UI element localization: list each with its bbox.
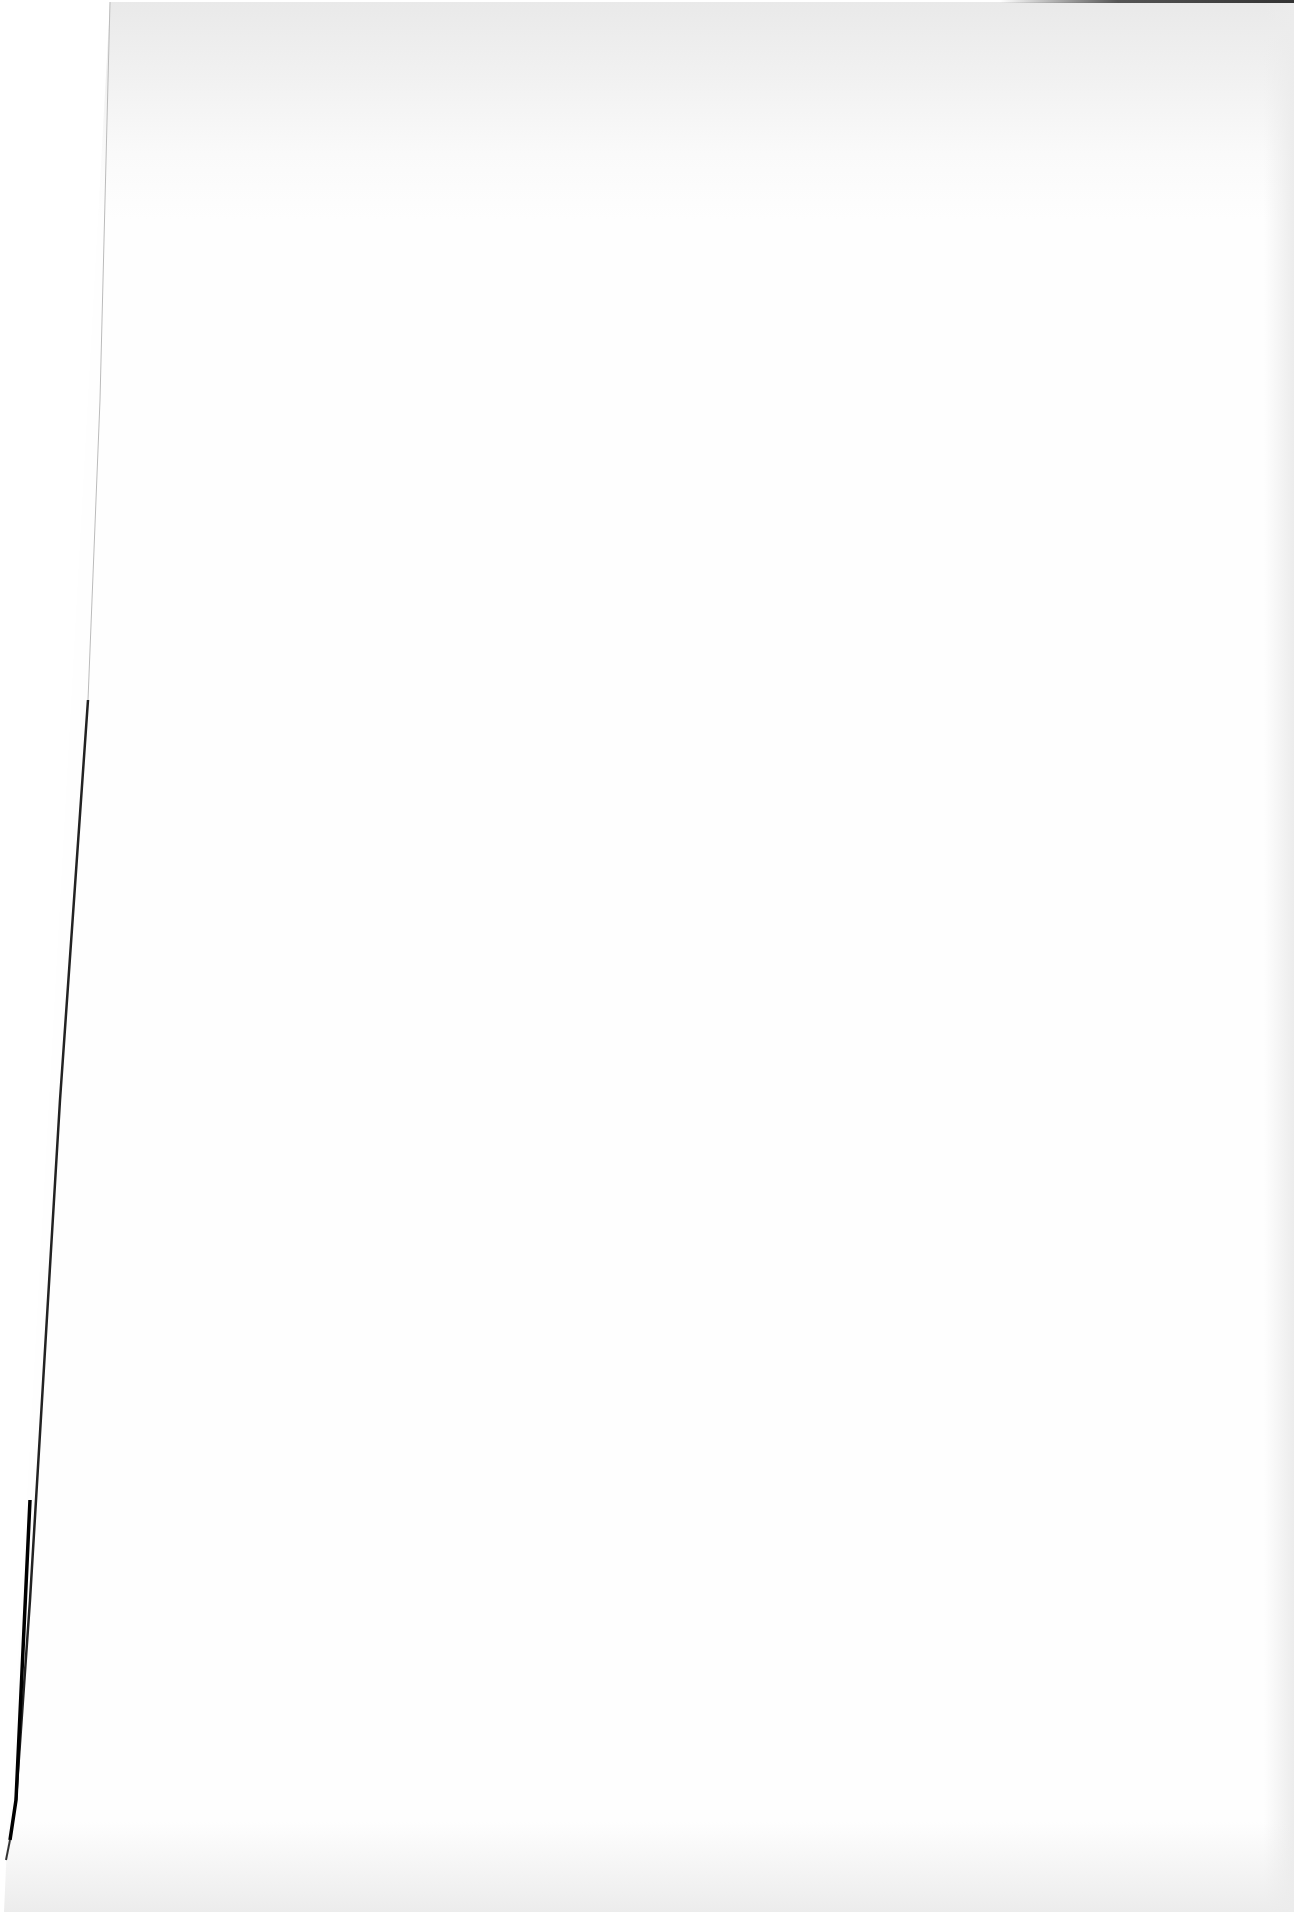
top-paper-edge — [1000, 0, 1294, 3]
right-scan-shadow — [1264, 0, 1294, 1912]
top-scan-shadow — [0, 0, 1294, 220]
scanned-page-canvas — [0, 0, 1294, 1912]
bottom-scan-shadow — [0, 1822, 1294, 1912]
blank-paper-sheet — [0, 0, 1294, 1912]
